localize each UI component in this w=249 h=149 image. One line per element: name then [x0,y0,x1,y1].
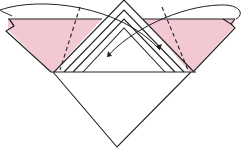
right-pink-flap [143,19,235,72]
origami-diagram [0,0,249,149]
left-pink-flap [6,19,102,72]
bottom-white-triangle [53,72,191,147]
